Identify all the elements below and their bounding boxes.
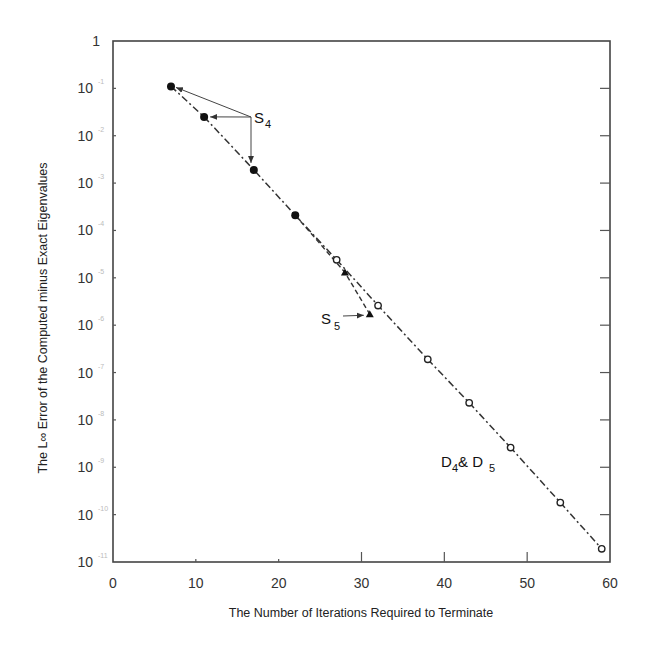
x-tick-label: 10 [188, 575, 204, 591]
y-tick-exponent: -10 [98, 505, 108, 512]
y-tick-exponent: -3 [98, 173, 104, 180]
y-tick-label: 10 [77, 412, 93, 428]
annotation-s5-sub: 5 [334, 320, 340, 332]
y-axis-title: The L∞ Error of the Computed minus Exact… [36, 162, 50, 473]
plot-border [113, 41, 610, 562]
x-tick-label: 30 [354, 575, 370, 591]
d4-d5-point [333, 257, 339, 263]
y-tick-exponent: -1 [98, 78, 104, 85]
y-tick-exponent: -11 [98, 552, 108, 559]
annotation-d5-label: & D [458, 453, 483, 470]
annotation-s4-sub: 4 [265, 118, 271, 130]
y-tick-exponent: -2 [98, 126, 104, 133]
d4-d5-point [466, 400, 472, 406]
y-tick-label: 1 [92, 33, 100, 49]
x-tick-label: 50 [519, 575, 535, 591]
y-tick-label: 10 [77, 507, 93, 523]
s4-point [250, 166, 258, 174]
d4-d5-point [557, 499, 563, 505]
y-tick-exponent: -4 [98, 220, 104, 227]
data-points [167, 82, 605, 552]
y-tick-exponent: -8 [98, 410, 104, 417]
x-tick-label: 20 [271, 575, 287, 591]
y-tick-label: 10 [77, 80, 93, 96]
annotation-d4-d5: D 4 & D 5 [441, 453, 495, 474]
annotation-s5: S 5 [321, 310, 340, 332]
y-tick-label: 10 [77, 317, 93, 333]
series-lines [171, 86, 602, 548]
y-tick-exponent: -5 [98, 268, 104, 275]
d4-d5-point [375, 302, 381, 308]
x-axis-ticks: 0102030405060 [109, 552, 618, 591]
chart: 110-110-210-310-410-510-610-710-810-910-… [0, 0, 652, 652]
y-tick-label: 10 [77, 365, 93, 381]
y-tick-label: 10 [77, 128, 93, 144]
annotation-s4: S 4 [254, 109, 271, 130]
s5-arrow [343, 315, 364, 316]
d4-d5-point [599, 546, 605, 552]
y-axis-ticks: 110-110-210-310-410-510-610-710-810-910-… [77, 33, 610, 570]
annotation-s5-label: S [321, 310, 331, 327]
y-tick-label: 10 [77, 270, 93, 286]
s4-point [200, 113, 208, 121]
y-tick-label: 10 [77, 554, 93, 570]
y-tick-label: 10 [77, 459, 93, 475]
annotation-s4-label: S [254, 109, 264, 126]
s5-line [295, 215, 370, 314]
y-tick-exponent: -9 [98, 457, 104, 464]
s4-point [167, 82, 175, 90]
y-tick-label: 10 [77, 222, 93, 238]
x-tick-label: 0 [109, 575, 117, 591]
y-tick-exponent: -7 [98, 363, 104, 370]
d4-d5-line [171, 86, 602, 548]
s4-arrow [176, 87, 251, 117]
x-tick-label: 60 [602, 575, 618, 591]
x-axis-title: The Number of Iterations Required to Ter… [229, 606, 494, 620]
y-tick-exponent: -6 [98, 315, 104, 322]
x-tick-label: 40 [437, 575, 453, 591]
plot-frame [113, 41, 610, 562]
d4-d5-point [425, 356, 431, 362]
annotation-d4-label: D [441, 453, 452, 470]
s4-point [291, 211, 299, 219]
annotation-d5-sub: 5 [489, 462, 495, 474]
s5-point [366, 310, 374, 317]
y-tick-label: 10 [77, 175, 93, 191]
d4-d5-point [507, 444, 513, 450]
